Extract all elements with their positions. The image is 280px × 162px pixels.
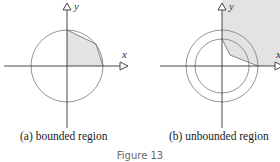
y-axis-label: y bbox=[73, 0, 79, 12]
figure-title: Figure 13 bbox=[0, 150, 280, 161]
panel-b: x y bbox=[160, 0, 280, 128]
y-axis-label: y bbox=[228, 0, 234, 12]
x-axis-label: x bbox=[275, 48, 280, 60]
caption-b: (b) unbounded region bbox=[169, 130, 269, 142]
x-arrow-icon bbox=[120, 62, 128, 70]
panel-a: x y bbox=[4, 0, 128, 128]
x-axis-label: x bbox=[121, 48, 127, 60]
caption-a: (a) bounded region bbox=[20, 130, 108, 142]
y-arrow-icon bbox=[63, 3, 71, 10]
